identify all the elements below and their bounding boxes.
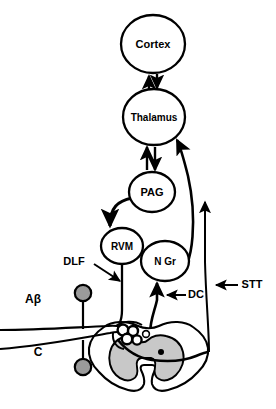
- pathway-diagram: Cortex Thalamus PAG RVM N Gr DLF DC: [0, 0, 276, 409]
- spinal-cord-cross-section: [0, 322, 209, 391]
- label-stt: STT: [242, 278, 263, 290]
- edge-pag-to-rvm: [110, 198, 132, 226]
- abeta-ganglion-cell: [75, 285, 91, 301]
- figure-canvas: Cortex Thalamus PAG RVM N Gr DLF DC: [0, 0, 276, 409]
- dorsal-horn-neuron-open: [143, 331, 150, 338]
- node-cortex-label: Cortex: [136, 38, 172, 50]
- node-thalamus-label: Thalamus: [131, 112, 178, 123]
- dorsal-horn-neuron: [122, 334, 132, 344]
- node-rvm[interactable]: RVM: [101, 228, 143, 264]
- dorsal-horn-neuron: [132, 335, 141, 344]
- fiber-labels-group: Aβ C: [25, 292, 43, 359]
- label-abeta: Aβ: [25, 292, 41, 306]
- cfiber-ganglion-cell: [75, 359, 91, 375]
- node-cortex[interactable]: Cortex: [121, 15, 185, 73]
- dlf-leader-arrow: [94, 264, 120, 281]
- tract-stt-ascending: [205, 202, 209, 352]
- node-rvm-label: RVM: [111, 241, 133, 252]
- node-pag-label: PAG: [140, 186, 163, 198]
- node-pag[interactable]: PAG: [129, 172, 175, 212]
- label-cfiber: C: [34, 345, 43, 359]
- node-ngr-label: N Gr: [154, 256, 176, 267]
- label-dlf: DLF: [63, 255, 85, 267]
- node-thalamus[interactable]: Thalamus: [123, 89, 185, 145]
- projection-neuron-soma: [158, 349, 164, 355]
- nodes-group: Cortex Thalamus PAG RVM N Gr: [101, 15, 189, 281]
- label-dc: DC: [188, 288, 204, 300]
- node-ngr[interactable]: N Gr: [141, 241, 189, 281]
